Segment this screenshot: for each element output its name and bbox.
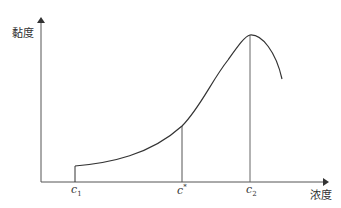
c1-subscript: 1 xyxy=(77,190,81,198)
c2-tick-label: c2 xyxy=(246,183,257,198)
cstar-superscript: * xyxy=(183,183,187,191)
viscosity-concentration-diagram xyxy=(0,0,341,208)
viscosity-curve xyxy=(75,35,282,166)
c1-tick-label: c1 xyxy=(71,183,82,198)
c2-subscript: 2 xyxy=(252,190,256,198)
x-axis-label: 浓度 xyxy=(310,186,332,202)
y-axis-label: 黏度 xyxy=(12,24,34,40)
cstar-tick-label: c* xyxy=(177,183,187,197)
